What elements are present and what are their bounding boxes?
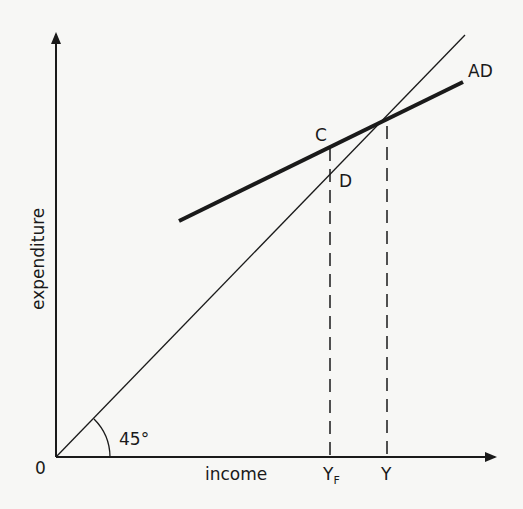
aggregate-demand-line (179, 82, 463, 221)
forty-five-degree-line (56, 35, 465, 457)
x-axis-label: income (205, 464, 267, 484)
diagram-canvas: 45° 0 income expenditure AD C D YF Y (0, 0, 523, 509)
y-axis-label: expenditure (28, 208, 48, 310)
point-c-label: C (315, 125, 327, 145)
ad-label: AD (468, 61, 493, 81)
yf-tick-label: YF (322, 464, 340, 487)
keynesian-cross-diagram: 45° 0 income expenditure AD C D YF Y (0, 0, 523, 509)
origin-label: 0 (35, 458, 46, 478)
angle-arc (94, 419, 110, 457)
yf-main: Y (322, 464, 334, 484)
point-d-label: D (339, 171, 352, 191)
yf-subscript: F (333, 474, 339, 487)
angle-label: 45° (119, 429, 149, 449)
y-tick-label: Y (380, 464, 392, 484)
